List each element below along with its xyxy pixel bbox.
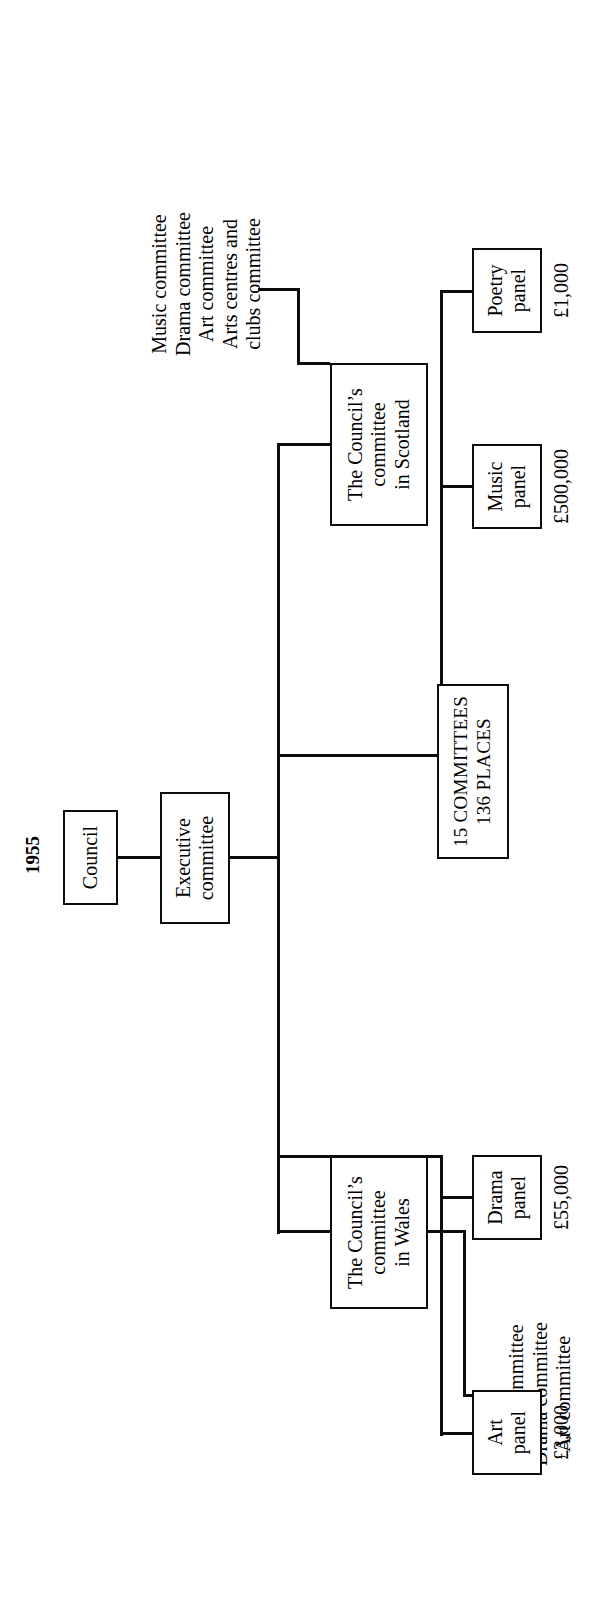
wales-list-connector-vertical: [428, 1230, 466, 1233]
connector-spine-to-scotland: [277, 443, 330, 446]
node-music-panel[interactable]: Music panel: [472, 444, 542, 529]
scotland-panel-rail-drop: [277, 754, 442, 757]
scotland-committee-list-line-5: clubs committee: [242, 154, 266, 414]
node-drama-panel-line-1: Drama: [484, 1170, 507, 1224]
node-art-panel-line-2: panel: [507, 1411, 530, 1454]
scotland-list-connector-horizontal: [297, 288, 300, 365]
scotland-committee-list-line-2: Drama committee: [172, 154, 196, 414]
poetry-panel-amount: £1,000: [550, 243, 573, 338]
node-poetry-panel[interactable]: Poetry panel: [472, 248, 542, 333]
summary-committees: 15 COMMITTEES: [450, 696, 473, 847]
node-scotland-committee[interactable]: The Council’s committee in Scotland: [330, 363, 428, 526]
node-wales-line-2: committee: [367, 1176, 390, 1289]
node-art-panel[interactable]: Art panel: [472, 1390, 542, 1475]
org-chart: 1955 Council Executive committee The Cou…: [0, 0, 609, 1619]
node-music-panel-line-2: panel: [507, 462, 530, 512]
node-wales-line-3: in Wales: [391, 1176, 414, 1289]
spine-horizontal: [277, 444, 280, 1234]
music-panel-amount: £500,000: [550, 439, 573, 534]
node-scotland-line-1: The Council’s: [344, 388, 367, 501]
rotated-page-canvas: 1955 Council Executive committee The Cou…: [0, 0, 609, 1619]
node-executive-line-2: committee: [195, 816, 218, 900]
connector-rail-to-poetry-panel: [440, 290, 472, 293]
node-art-panel-line-1: Art: [484, 1411, 507, 1454]
art-panel-amount: £3,000: [550, 1385, 573, 1480]
node-wales-committee[interactable]: The Council’s committee in Wales: [330, 1156, 428, 1309]
connector-council-to-executive: [118, 856, 160, 859]
node-council-line-1: Council: [79, 826, 102, 889]
page-title: 1955: [22, 836, 44, 874]
connector-spine-to-wales: [277, 1230, 330, 1233]
node-drama-panel-line-2: panel: [507, 1170, 530, 1224]
connector-rail-to-drama-panel: [440, 1196, 472, 1199]
drama-panel-amount: £55,000: [550, 1150, 573, 1245]
node-scotland-line-2: committee: [367, 388, 390, 501]
connector-executive-to-spine: [230, 856, 278, 859]
scotland-list-connector-vertical: [297, 362, 330, 365]
summary-box: 15 COMMITTEES 136 PLACES: [437, 684, 509, 859]
scotland-committee-list-line-1: Music committee: [148, 154, 172, 414]
node-music-panel-line-1: Music: [484, 462, 507, 512]
scotland-committee-list-line-4: Arts centres and: [219, 154, 243, 414]
scotland-committee-list: Music committee Drama committee Art comm…: [148, 154, 266, 414]
summary-places: 136 PLACES: [473, 696, 496, 847]
node-wales-line-1: The Council’s: [344, 1176, 367, 1289]
node-executive-committee[interactable]: Executive committee: [160, 792, 230, 924]
node-poetry-panel-line-1: Poetry: [484, 264, 507, 316]
connector-rail-to-music-panel: [440, 485, 472, 488]
node-drama-panel[interactable]: Drama panel: [472, 1155, 542, 1240]
node-executive-line-1: Executive: [172, 816, 195, 900]
wales-list-connector-horizontal: [463, 1230, 466, 1397]
connector-rail-to-art-panel: [440, 1432, 472, 1435]
node-poetry-panel-line-2: panel: [507, 264, 530, 316]
node-scotland-line-3: in Scotland: [391, 388, 414, 501]
scotland-committee-list-line-3: Art committee: [195, 154, 219, 414]
node-council[interactable]: Council: [63, 810, 118, 905]
